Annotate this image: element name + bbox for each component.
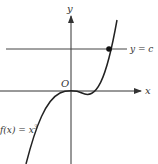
intersection-point: [106, 46, 112, 52]
origin-label: O: [61, 78, 69, 89]
cubic-graph: y x O y = c f(x) = x3: [0, 0, 158, 164]
x-axis-label: x: [145, 85, 151, 96]
line-label: y = c: [129, 44, 153, 54]
y-axis-label: y: [66, 3, 73, 14]
function-label: f(x) = x3: [0, 123, 38, 135]
